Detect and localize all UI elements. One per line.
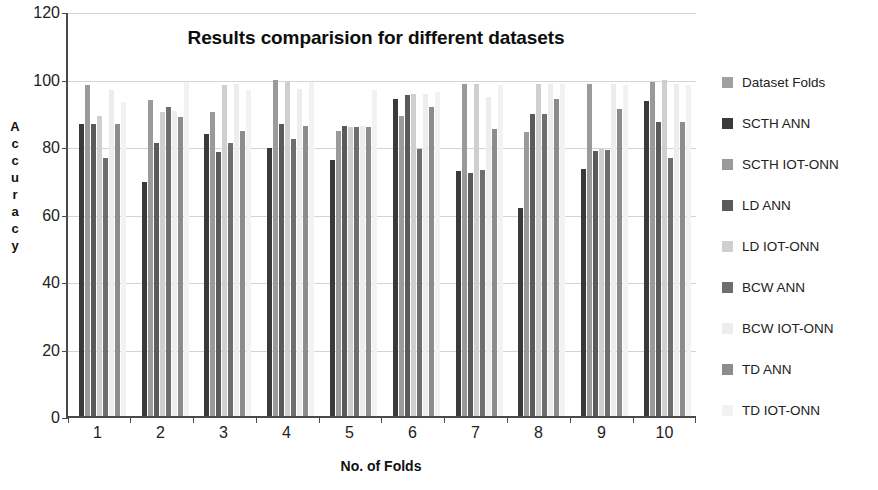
bar	[668, 158, 673, 416]
bar	[656, 122, 661, 416]
bar	[291, 139, 296, 416]
bar	[330, 160, 335, 416]
bar	[354, 127, 359, 416]
bar-group	[382, 13, 445, 416]
bar	[109, 90, 114, 416]
x-tick-mark	[381, 416, 382, 423]
bar	[548, 84, 553, 416]
bar	[554, 99, 559, 416]
bar	[178, 117, 183, 416]
bar	[342, 126, 347, 416]
bar-group	[194, 13, 257, 416]
bar	[204, 134, 209, 416]
legend-item[interactable]: BCW IOT-ONN	[722, 308, 872, 349]
bar	[273, 80, 278, 416]
bar	[581, 169, 586, 416]
bar	[103, 158, 108, 416]
bar	[97, 116, 102, 416]
bar	[222, 85, 227, 416]
bar	[148, 100, 153, 416]
bar	[674, 84, 679, 416]
bar-group	[131, 13, 194, 416]
x-tick-label: 9	[570, 424, 633, 442]
bar	[518, 208, 523, 416]
bar	[435, 92, 440, 416]
bar	[456, 171, 461, 416]
bar	[160, 112, 165, 416]
bar	[366, 127, 371, 416]
x-tick-mark	[570, 416, 571, 423]
bar	[393, 99, 398, 416]
x-tick-label: 1	[66, 424, 129, 442]
y-tick-label: 80	[14, 139, 60, 157]
bar	[530, 114, 535, 416]
legend-label: SCTH IOT-ONN	[742, 157, 839, 172]
bar	[662, 80, 667, 416]
x-tick-label: 6	[381, 424, 444, 442]
bar	[524, 132, 529, 416]
bar	[486, 97, 491, 416]
legend-item[interactable]: LD ANN	[722, 185, 872, 226]
bar	[498, 85, 503, 416]
legend-item[interactable]: SCTH IOT-ONN	[722, 144, 872, 185]
bar	[303, 126, 308, 416]
bar	[285, 82, 290, 416]
bar	[267, 148, 272, 416]
x-tick-mark	[193, 416, 194, 423]
plot-area	[66, 13, 696, 418]
bar	[587, 84, 592, 416]
legend-label: SCTH ANN	[742, 116, 810, 131]
legend-swatch-icon	[722, 200, 733, 211]
legend-item[interactable]: TD IOT-ONN	[722, 390, 872, 431]
legend-item[interactable]: SCTH ANN	[722, 103, 872, 144]
bar	[228, 143, 233, 416]
legend-label: LD ANN	[742, 198, 791, 213]
x-tick-label: 4	[255, 424, 318, 442]
legend-item[interactable]: LD IOT-ONN	[722, 226, 872, 267]
bar	[154, 143, 159, 416]
x-tick-mark	[444, 416, 445, 423]
bar	[240, 131, 245, 416]
bar	[411, 94, 416, 416]
legend-label: TD ANN	[742, 362, 792, 377]
bar	[593, 151, 598, 416]
bar	[216, 152, 221, 416]
bar	[617, 109, 622, 416]
x-tick-mark	[695, 416, 696, 423]
legend-label: LD IOT-ONN	[742, 239, 819, 254]
bar	[184, 82, 189, 416]
bar	[536, 84, 541, 416]
bar	[429, 107, 434, 416]
bar	[142, 182, 147, 416]
bar-group	[68, 13, 131, 416]
legend-swatch-icon	[722, 118, 733, 129]
bar	[309, 82, 314, 416]
legend-swatch-icon	[722, 159, 733, 170]
bar	[542, 114, 547, 416]
bar	[480, 170, 485, 416]
legend-label: BCW IOT-ONN	[742, 321, 834, 336]
bar	[85, 85, 90, 416]
x-axis-title: No. of Folds	[66, 458, 696, 474]
bar	[297, 89, 302, 416]
x-tick-mark	[633, 416, 634, 423]
chart-root: Results comparision for different datase…	[0, 0, 878, 490]
bar	[686, 85, 691, 416]
x-tick-mark	[256, 416, 257, 423]
legend-swatch-icon	[722, 77, 733, 88]
bar	[279, 124, 284, 416]
bar-groups	[68, 13, 696, 416]
bar	[166, 107, 171, 416]
y-tick-label: 60	[14, 207, 60, 225]
bar-group	[319, 13, 382, 416]
x-tick-mark	[68, 416, 69, 423]
bar	[79, 124, 84, 416]
y-tick-label: 20	[14, 342, 60, 360]
bar	[611, 84, 616, 416]
legend-item[interactable]: BCW ANN	[722, 267, 872, 308]
legend-item[interactable]: TD ANN	[722, 349, 872, 390]
bar	[650, 82, 655, 416]
bar-group	[445, 13, 508, 416]
legend-item[interactable]: Dataset Folds	[722, 62, 872, 103]
y-tick-label: 120	[14, 4, 60, 22]
